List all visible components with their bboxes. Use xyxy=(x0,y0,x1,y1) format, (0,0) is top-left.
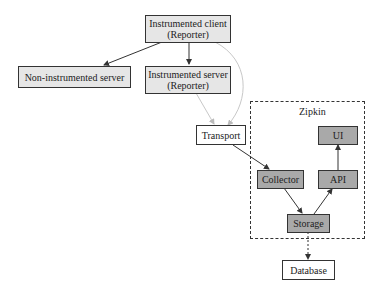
node-ui-label: UI xyxy=(333,130,344,141)
node-transport-label: Transport xyxy=(202,130,241,141)
node-non-instrumented-server: Non-instrumented server xyxy=(18,66,131,88)
node-instrumented-client: Instrumented client (Reporter) xyxy=(145,15,231,43)
node-storage: Storage xyxy=(287,214,330,233)
node-ui: UI xyxy=(318,126,358,145)
node-storage-label: Storage xyxy=(293,218,324,229)
node-instrumented-client-line2: (Reporter) xyxy=(167,29,209,40)
node-api-label: API xyxy=(330,174,346,185)
node-transport: Transport xyxy=(196,125,246,145)
edge-client-to-noninstrumented xyxy=(104,42,162,65)
node-database: Database xyxy=(282,260,335,280)
zipkin-group-label: Zipkin xyxy=(299,106,326,117)
node-instrumented-server-line2: (Reporter) xyxy=(167,80,209,91)
node-api: API xyxy=(318,170,358,189)
node-instrumented-server-line1: Instrumented server xyxy=(148,69,228,80)
node-instrumented-client-line1: Instrumented client xyxy=(149,18,226,29)
node-non-instrumented-server-label: Non-instrumented server xyxy=(25,72,125,83)
node-collector: Collector xyxy=(257,170,304,189)
node-database-label: Database xyxy=(290,265,327,276)
node-collector-label: Collector xyxy=(262,174,299,185)
edge-server-to-transport xyxy=(196,93,214,124)
node-instrumented-server: Instrumented server (Reporter) xyxy=(145,66,231,94)
